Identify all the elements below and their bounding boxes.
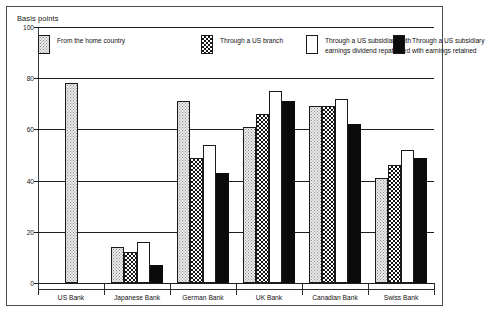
x-axis-category-label: Japanese Bank (114, 294, 160, 301)
bar (203, 145, 216, 283)
bar (348, 124, 361, 283)
bar (309, 106, 322, 283)
bar (375, 178, 388, 283)
y-axis-tick-label: 0 (30, 280, 34, 287)
bar (216, 173, 229, 283)
x-axis-category-label: Canadian Bank (312, 294, 358, 301)
y-axis-title: Basis points (17, 14, 59, 23)
legend-label: From the home country (57, 34, 125, 46)
x-axis: US BankJapanese BankGerman BankUK BankCa… (38, 283, 434, 309)
bar (190, 158, 203, 283)
legend-swatch (306, 35, 318, 54)
y-axis-tick-label: 40 (27, 177, 34, 184)
bar (150, 265, 163, 283)
y-axis-tick-label: 20 (27, 228, 34, 235)
chart-figure: Basis points 020406080100 US BankJapanes… (6, 6, 443, 306)
chart-legend: From the home countryThrough a US branch… (38, 34, 434, 70)
x-axis-category-label: Swiss Bank (384, 294, 419, 301)
bar (401, 150, 414, 283)
legend-item: Through a US branch (201, 34, 283, 54)
bar (256, 114, 269, 283)
bar (177, 101, 190, 283)
legend-item: Through a US subsidiarywith earnings ret… (393, 34, 485, 55)
x-axis-category-label: US Bank (58, 294, 84, 301)
legend-label: Through a US branch (220, 34, 283, 46)
x-axis-tick-mark (38, 283, 39, 295)
y-axis-tick-label: 100 (23, 24, 34, 31)
x-axis-tick-mark (368, 283, 369, 295)
legend-swatch (201, 35, 213, 54)
legend-swatch (393, 35, 405, 54)
bar (388, 165, 401, 283)
bar (414, 158, 427, 283)
y-axis-tick-label: 80 (27, 75, 34, 82)
y-axis-tick-label: 60 (27, 126, 34, 133)
x-axis-category-label: UK Bank (256, 294, 282, 301)
x-axis-tick-mark (170, 283, 171, 295)
bar (322, 106, 335, 283)
x-axis-tick-mark (434, 283, 435, 295)
bar (137, 242, 150, 283)
bar (111, 247, 124, 283)
x-axis-category-label: German Bank (182, 294, 223, 301)
bar (243, 127, 256, 283)
x-axis-tick-mark (236, 283, 237, 295)
x-axis-tick-mark (104, 283, 105, 295)
legend-swatch (38, 35, 50, 54)
x-axis-tick-mark (302, 283, 303, 295)
bar (335, 99, 348, 283)
bar (124, 252, 137, 283)
legend-label: Through a US subsidiarywith earnings ret… (412, 34, 485, 55)
legend-item: From the home country (38, 34, 125, 54)
bar (65, 83, 78, 283)
bar (282, 101, 295, 283)
bar (269, 91, 282, 283)
